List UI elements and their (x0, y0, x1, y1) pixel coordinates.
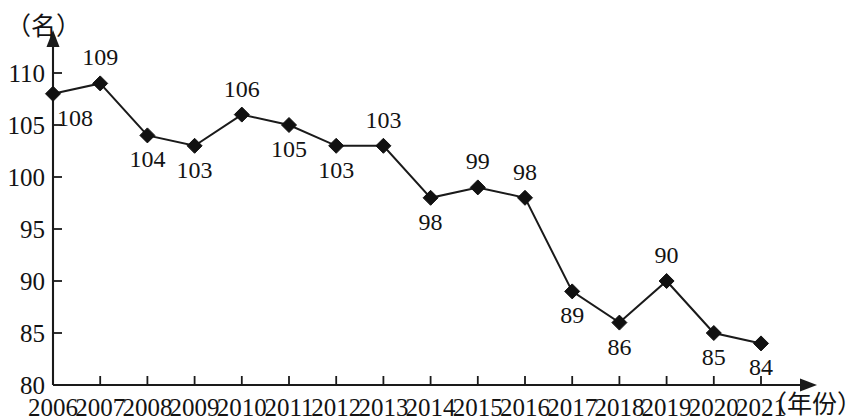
y-axis-unit-label: （名） (6, 14, 81, 39)
y-axis-tick-label: 100 (0, 165, 45, 190)
data-point-marker (234, 107, 249, 122)
data-point-label: 103 (308, 158, 364, 182)
data-point-marker (470, 180, 485, 195)
data-point-label: 98 (497, 160, 553, 184)
y-axis-tick-label: 105 (0, 113, 45, 138)
line-chart: （名） （年份） 8085909510010511020062007200820… (0, 0, 860, 420)
x-axis-tick-label: 2021 (726, 395, 796, 420)
data-point-label: 108 (47, 106, 103, 130)
data-point-label: 86 (591, 335, 647, 359)
x-axis-arrowhead (800, 379, 817, 392)
data-point-marker (282, 118, 297, 133)
x-axis-ticks (100, 376, 761, 385)
data-point-label: 106 (214, 77, 270, 101)
data-point-label: 90 (639, 243, 695, 267)
y-axis-tick-label: 90 (0, 269, 45, 294)
y-axis-tick-label: 85 (0, 321, 45, 346)
data-point-label: 89 (544, 303, 600, 327)
y-axis-tick-label: 110 (0, 61, 45, 86)
data-point-label: 109 (72, 45, 128, 69)
data-point-label: 103 (355, 108, 411, 132)
data-point-marker (329, 138, 344, 153)
data-point-marker (518, 190, 533, 205)
y-axis-tick-label: 95 (0, 217, 45, 242)
data-point-label: 98 (403, 210, 459, 234)
data-point-marker (565, 284, 580, 299)
data-point-label: 84 (733, 355, 789, 379)
data-point-label: 103 (167, 158, 223, 182)
data-point-marker (754, 336, 769, 351)
data-point-marker (46, 86, 61, 101)
data-point-marker (187, 138, 202, 153)
